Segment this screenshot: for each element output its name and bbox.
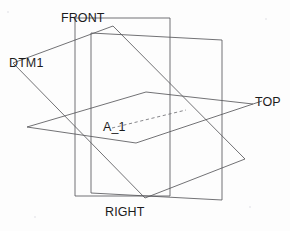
label-dtm1: DTM1	[9, 57, 43, 70]
front-plane-outline[interactable]	[75, 18, 170, 196]
label-axis-a1: A_1	[103, 121, 126, 134]
dtm1-plane-outline[interactable]	[13, 26, 245, 198]
label-top: TOP	[255, 96, 281, 109]
label-right: RIGHT	[105, 206, 144, 219]
cad-drawing-canvas[interactable]: FRONT DTM1 TOP A_1 RIGHT	[0, 0, 290, 231]
top-plane-outline[interactable]	[27, 92, 253, 143]
label-front: FRONT	[61, 12, 105, 25]
datum-plane-diagram	[0, 0, 290, 231]
